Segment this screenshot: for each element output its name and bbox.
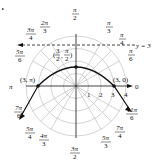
ring-label-1: 1 bbox=[87, 91, 91, 99]
corner-mark bbox=[2, 8, 4, 10]
point-3-0 bbox=[112, 84, 116, 88]
axis-arrow-icon bbox=[127, 84, 133, 88]
svg-text:3: 3 bbox=[42, 140, 46, 148]
svg-text:3: 3 bbox=[56, 47, 60, 55]
svg-text:3: 3 bbox=[43, 27, 47, 35]
svg-text:7π: 7π bbox=[15, 104, 23, 112]
svg-text:6: 6 bbox=[130, 114, 134, 122]
svg-text:6: 6 bbox=[18, 56, 22, 64]
svg-text:11π: 11π bbox=[127, 106, 137, 114]
point-label-3half-pi2: ( 3 2 , π 2 ) bbox=[53, 47, 73, 63]
angle-label-5pi-6: 5π 6 bbox=[15, 48, 25, 64]
svg-text:2: 2 bbox=[73, 14, 77, 22]
svg-text:,: , bbox=[61, 52, 63, 60]
angle-label-0: 0 bbox=[135, 83, 139, 91]
point-3-pi bbox=[36, 84, 40, 88]
svg-text:2: 2 bbox=[56, 55, 60, 63]
angle-label-pi-6: π 6 bbox=[128, 47, 135, 63]
svg-text:): ) bbox=[70, 51, 73, 59]
angle-label-3pi-4: 3π 4 bbox=[26, 26, 36, 42]
angle-label-pi-3: π 3 bbox=[106, 19, 113, 35]
ring-label-3: 3 bbox=[111, 91, 115, 99]
svg-text:3π: 3π bbox=[26, 26, 35, 34]
svg-text:π: π bbox=[73, 6, 77, 14]
angle-label-2pi-3: 2π 3 bbox=[40, 19, 50, 35]
ring-label-2: 2 bbox=[99, 91, 103, 99]
dashed-line-arrow-icon bbox=[17, 43, 23, 47]
point-label-3-0: (3, 0) bbox=[113, 76, 129, 84]
svg-text:π: π bbox=[120, 31, 124, 39]
svg-text:2π: 2π bbox=[41, 19, 49, 27]
dashed-line-label: y = 3 bbox=[135, 42, 151, 50]
svg-text:2: 2 bbox=[65, 55, 69, 63]
svg-text:5π: 5π bbox=[26, 125, 34, 133]
angle-label-5pi-3: 5π 3 bbox=[101, 134, 111, 150]
angle-label-5pi-4: 5π 4 bbox=[25, 125, 35, 141]
angle-label-pi: π bbox=[9, 83, 13, 91]
svg-text:4: 4 bbox=[28, 133, 32, 141]
svg-text:3: 3 bbox=[104, 142, 108, 150]
svg-text:3π: 3π bbox=[70, 145, 79, 153]
svg-text:4π: 4π bbox=[40, 132, 48, 140]
svg-text:π: π bbox=[129, 47, 133, 55]
ring-label-4: 4 bbox=[124, 91, 128, 99]
svg-text:5π: 5π bbox=[102, 134, 110, 142]
angle-label-pi-2: π 2 bbox=[72, 6, 79, 22]
polar-graph: 1 2 3 4 (3, π) (3, 0) ( 3 2 , π 2 ) y = … bbox=[0, 0, 153, 166]
svg-text:π: π bbox=[107, 19, 111, 27]
svg-text:4: 4 bbox=[29, 34, 33, 42]
svg-text:2: 2 bbox=[73, 153, 77, 161]
point-label-3-pi: (3, π) bbox=[20, 76, 36, 84]
angle-label-7pi-4: 7π 4 bbox=[115, 124, 125, 140]
svg-text:3: 3 bbox=[107, 27, 111, 35]
point-3half-pi2 bbox=[74, 65, 78, 69]
svg-text:6: 6 bbox=[17, 112, 21, 120]
svg-text:4: 4 bbox=[120, 39, 124, 47]
svg-text:6: 6 bbox=[129, 55, 133, 63]
svg-text:7π: 7π bbox=[116, 124, 124, 132]
svg-text:5π: 5π bbox=[16, 48, 24, 56]
angle-label-11pi-6: 11π 6 bbox=[126, 106, 138, 122]
svg-text:π: π bbox=[65, 47, 69, 55]
svg-text:4: 4 bbox=[118, 132, 122, 140]
angle-label-4pi-3: 4π 3 bbox=[39, 132, 49, 148]
angle-label-3pi-2: 3π 2 bbox=[70, 145, 80, 161]
